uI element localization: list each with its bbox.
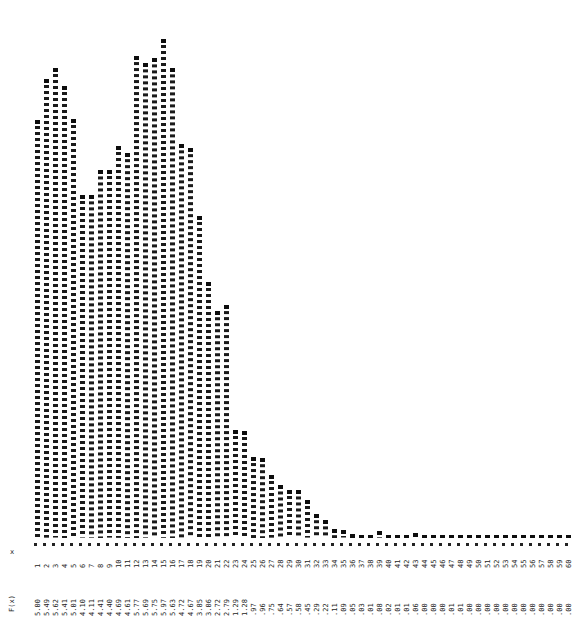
x-tick-label: 2 <box>43 536 52 568</box>
x-tick-label: 26 <box>259 536 268 568</box>
bar <box>125 153 130 538</box>
x-tick-label: 14 <box>151 536 160 568</box>
bar <box>314 514 319 538</box>
fx-value: 4.10 <box>79 578 88 616</box>
fx-value: .06 <box>412 578 421 616</box>
x-tick-label: 1 <box>34 536 43 568</box>
plot-area <box>34 20 574 538</box>
x-tick-label: 17 <box>178 536 187 568</box>
fx-value: 5.77 <box>133 578 142 616</box>
bar <box>71 119 76 538</box>
fx-value: .08 <box>376 578 385 616</box>
bar <box>287 490 292 538</box>
fx-value: .05 <box>349 578 358 616</box>
x-tick-label: 11 <box>124 536 133 568</box>
fx-value: .00 <box>538 578 547 616</box>
x-tick-label: 57 <box>538 536 547 568</box>
x-tick-label: 24 <box>241 536 250 568</box>
x-tick-label: 22 <box>223 536 232 568</box>
x-tick-label: 32 <box>313 536 322 568</box>
fx-value: 4.40 <box>106 578 115 616</box>
bar <box>251 457 256 538</box>
x-tick-label: 49 <box>466 536 475 568</box>
bar <box>53 68 58 538</box>
fx-value: 5.97 <box>160 578 169 616</box>
fx-value: 4.61 <box>124 578 133 616</box>
x-tick-label: 53 <box>502 536 511 568</box>
x-tick-label: 47 <box>448 536 457 568</box>
fx-value: 2.72 <box>214 578 223 616</box>
fx-value: .01 <box>448 578 457 616</box>
x-tick-label: 23 <box>232 536 241 568</box>
x-tick-label: 29 <box>286 536 295 568</box>
fx-value: .03 <box>358 578 367 616</box>
x-tick-label: 7 <box>88 536 97 568</box>
x-tick-label: 45 <box>430 536 439 568</box>
x-tick-label: 6 <box>79 536 88 568</box>
fx-value: .00 <box>502 578 511 616</box>
fx-value: .00 <box>466 578 475 616</box>
fx-value: 1.28 <box>241 578 250 616</box>
bar <box>62 86 67 538</box>
x-tick-label: 48 <box>457 536 466 568</box>
fx-value: .00 <box>547 578 556 616</box>
x-tick-label: 5 <box>70 536 79 568</box>
fx-value: .45 <box>304 578 313 616</box>
fx-value: .02 <box>385 578 394 616</box>
x-tick-label: 10 <box>115 536 124 568</box>
fx-value: .00 <box>439 578 448 616</box>
fx-value: .00 <box>529 578 538 616</box>
dot-matrix-histogram-figure: 1234567891011121314151617181920212223242… <box>0 0 586 618</box>
x-tick-label: 27 <box>268 536 277 568</box>
fx-value: 4.41 <box>97 578 106 616</box>
x-tick-label: 30 <box>295 536 304 568</box>
bar <box>215 311 220 538</box>
x-tick-label: 43 <box>412 536 421 568</box>
x-tick-label: 42 <box>403 536 412 568</box>
x-tick-label: 16 <box>169 536 178 568</box>
bar <box>116 146 121 538</box>
x-tick-label: 34 <box>331 536 340 568</box>
fx-value: .00 <box>421 578 430 616</box>
bar <box>98 170 103 538</box>
x-tick-label: 8 <box>97 536 106 568</box>
x-tick-label: 38 <box>367 536 376 568</box>
bar <box>188 148 193 538</box>
x-tick-label: 55 <box>520 536 529 568</box>
fx-value: .00 <box>475 578 484 616</box>
x-tick-label: 51 <box>484 536 493 568</box>
bar <box>152 58 157 538</box>
x-tick-label: 12 <box>133 536 142 568</box>
x-tick-label: 19 <box>196 536 205 568</box>
bar <box>80 195 85 538</box>
fx-value: .57 <box>286 578 295 616</box>
fx-value: 5.00 <box>34 578 43 616</box>
bar <box>197 216 202 538</box>
bar <box>296 490 301 538</box>
x-tick-label: 33 <box>322 536 331 568</box>
x-tick-label: 35 <box>340 536 349 568</box>
fx-value: .00 <box>430 578 439 616</box>
fx-value: .64 <box>277 578 286 616</box>
fx-value: .00 <box>511 578 520 616</box>
fx-value: .29 <box>313 578 322 616</box>
x-tick-label: 25 <box>250 536 259 568</box>
x-tick-label: 59 <box>556 536 565 568</box>
x-axis-tick-labels: 1234567891011121314151617181920212223242… <box>34 536 574 570</box>
fx-value: 5.49 <box>43 578 52 616</box>
x-tick-label: 56 <box>529 536 538 568</box>
fx-value: .11 <box>331 578 340 616</box>
x-tick-label: 18 <box>187 536 196 568</box>
fx-value: .09 <box>340 578 349 616</box>
fx-row-label: F(x) <box>8 578 22 612</box>
x-tick-label: 4 <box>61 536 70 568</box>
fx-value: 5.62 <box>52 578 61 616</box>
bar <box>107 170 112 538</box>
bar <box>233 430 238 538</box>
fx-value: .00 <box>565 578 574 616</box>
fx-value: .00 <box>556 578 565 616</box>
fx-value: 5.75 <box>151 578 160 616</box>
x-tick-label: 9 <box>106 536 115 568</box>
bar <box>260 458 265 538</box>
x-tick-label: 31 <box>304 536 313 568</box>
